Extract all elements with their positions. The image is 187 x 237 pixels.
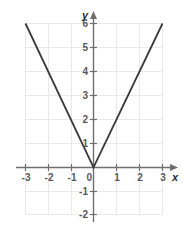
x-tick-label-neg2: -2 (41, 173, 57, 183)
x-tick-label-neg3: -3 (18, 173, 34, 183)
absolute-value-graph: -3 -2 -1 0 1 2 3 6 5 4 3 2 1 -1 -2 y x (0, 0, 187, 237)
x-tick-label-2: 2 (134, 173, 146, 183)
coordinate-plane-svg (0, 0, 187, 237)
x-tick-label-3: 3 (157, 173, 169, 183)
x-axis (16, 164, 178, 171)
y-tick-label-3: 3 (74, 91, 88, 101)
x-axis-name-label: x (172, 172, 178, 183)
y-tick-label-neg1: -1 (70, 187, 88, 197)
y-tick-label-2: 2 (74, 115, 88, 125)
y-axis-name-label: y (82, 10, 88, 21)
y-tick-label-1: 1 (74, 139, 88, 149)
x-tick-label-zero: 0 (82, 173, 92, 183)
y-axis (90, 11, 97, 222)
y-tick-label-4: 4 (74, 67, 88, 77)
x-tick-label-1: 1 (111, 173, 123, 183)
y-tick-label-neg2: -2 (70, 210, 88, 220)
y-tick-label-5: 5 (74, 43, 88, 53)
x-tick-label-neg1: -1 (64, 173, 80, 183)
